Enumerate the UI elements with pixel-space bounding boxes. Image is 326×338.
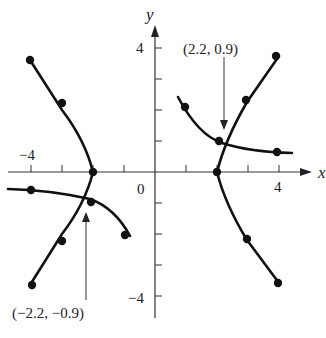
y-axis-arrow-icon (151, 25, 159, 37)
annotation-upper: (2.2, 0.9) (183, 41, 238, 58)
y-tick-label-pos4: 4 (136, 40, 144, 56)
chart-figure: x y −4 4 4 −4 0 (2.2, 0.9) (−2.2, −0.9) (0, 0, 326, 338)
x-tick-label-pos4: 4 (274, 179, 282, 195)
y-axis-label: y (144, 5, 154, 24)
annotation-lower: (−2.2, −0.9) (12, 305, 84, 322)
arrow-down-icon (220, 120, 228, 130)
lower-decay-curve (8, 189, 130, 236)
data-points (26, 52, 282, 289)
x-axis-label: x (317, 163, 326, 182)
axes (8, 30, 300, 318)
x-tick-label-neg4: −4 (19, 147, 35, 163)
curves (8, 56, 292, 285)
arrow-up-icon (82, 212, 90, 222)
y-tick-label-neg4: −4 (128, 290, 144, 306)
x-axis-arrow-icon (300, 168, 312, 176)
origin-label: 0 (137, 181, 145, 197)
chart-svg: x y −4 4 4 −4 0 (2.2, 0.9) (−2.2, −0.9) (0, 0, 326, 338)
